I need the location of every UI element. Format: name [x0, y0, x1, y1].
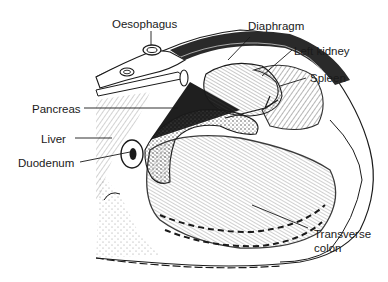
label-pancreas: Pancreas: [32, 103, 81, 115]
label-oesophagus: Oesophagus: [112, 18, 177, 30]
oesophagus-opening: [143, 45, 161, 55]
anatomy-diagram: Oesophagus Diaphragm Left kidney Spleen …: [0, 0, 388, 282]
label-duodenum: Duodenum: [18, 157, 74, 169]
vessel-opening: [120, 68, 134, 76]
label-spleen: Spleen: [310, 72, 346, 84]
label-transverse-colon-line1: Transverse: [314, 228, 371, 240]
label-transverse-colon-line2: colon: [314, 242, 342, 254]
label-left-kidney: Left kidney: [294, 45, 350, 57]
label-liver: Liver: [41, 133, 66, 145]
label-diaphragm: Diaphragm: [248, 20, 304, 32]
